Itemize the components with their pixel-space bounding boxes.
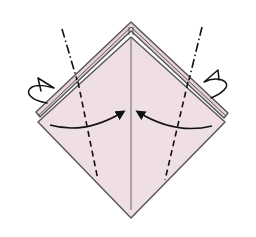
right-mountain-fold-line (189, 27, 202, 80)
diagram-svg (0, 0, 256, 237)
origami-diagram (0, 0, 256, 237)
left-mountain-fold-line (62, 29, 77, 80)
